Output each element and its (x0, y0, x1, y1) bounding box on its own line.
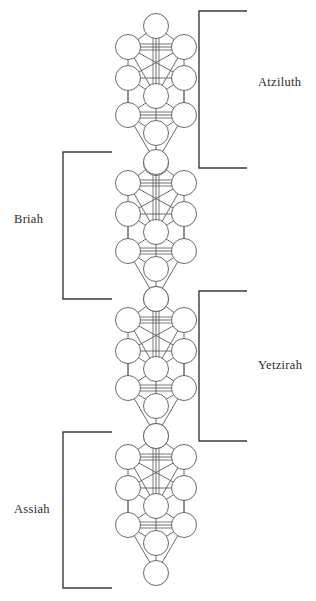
sephirah-malkuth (144, 561, 169, 586)
world-label-yetzirah: Yetzirah (258, 359, 302, 372)
sephirah-kether (144, 150, 169, 175)
sephirah-tiphareth (144, 357, 169, 382)
sephirah-chesed (172, 476, 197, 501)
sephirah-tiphareth (144, 84, 169, 109)
bracket-yetzirah (199, 291, 247, 441)
sephirah-binah (116, 308, 141, 333)
sephirah-hod (116, 513, 141, 538)
sephirah-netzach (172, 513, 197, 538)
sephirah-kether (144, 287, 169, 312)
sephirah-binah (116, 35, 141, 60)
sephirah-binah (116, 171, 141, 196)
world-label-assiah: Assiah (14, 503, 50, 516)
sephirah-yesod (144, 257, 169, 282)
bracket-atziluth (199, 11, 247, 168)
sephirah-netzach (172, 376, 197, 401)
sephirah-chokmah (172, 445, 197, 470)
bracket-briah (63, 152, 112, 299)
world-label-atziluth: Atziluth (258, 76, 301, 89)
sephirah-chokmah (172, 308, 197, 333)
sephirah-chokmah (172, 35, 197, 60)
sephirah-netzach (172, 239, 197, 264)
sephirah-kether (144, 14, 169, 39)
sephirah-geburah (116, 202, 141, 227)
sephirah-tiphareth (144, 220, 169, 245)
sephirah-yesod (144, 531, 169, 556)
sephirah-hod (116, 239, 141, 264)
sephirah-tiphareth (144, 494, 169, 519)
sephirah-geburah (116, 66, 141, 91)
sephirah-geburah (116, 476, 141, 501)
sephirah-binah (116, 445, 141, 470)
sephirah-chokmah (172, 171, 197, 196)
bracket-assiah (63, 432, 112, 588)
sephirah-yesod (144, 121, 169, 146)
sephirah-kether (144, 424, 169, 449)
sephirah-chesed (172, 202, 197, 227)
sephirah-hod (116, 376, 141, 401)
sephirah-chesed (172, 339, 197, 364)
sephirah-yesod (144, 394, 169, 419)
sephirah-hod (116, 103, 141, 128)
sephirah-geburah (116, 339, 141, 364)
sephirah-netzach (172, 103, 197, 128)
world-label-briah: Briah (14, 213, 43, 226)
sephirah-chesed (172, 66, 197, 91)
